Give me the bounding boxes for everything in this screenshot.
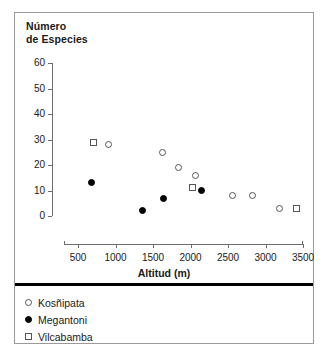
x-axis-endcap-left: [64, 241, 65, 245]
legend-item-label: Megantoni: [38, 314, 87, 326]
x-tick-label: 500: [58, 252, 98, 263]
figure-container: Número de Especies 0102030405060 5001000…: [14, 12, 314, 344]
data-point-open-circle: [192, 172, 199, 179]
x-axis-title: Altitud (m): [15, 267, 313, 279]
y-tick-label: 20: [23, 159, 45, 170]
data-point-open-circle: [105, 141, 112, 148]
y-axis-title: Número de Especies: [26, 20, 88, 46]
x-tick-label: 2500: [208, 252, 248, 263]
x-tick: [78, 244, 79, 248]
x-axis-line: [64, 244, 303, 245]
x-tick-label: 3000: [246, 252, 286, 263]
open-square-icon: [25, 333, 32, 340]
x-tick-label: 3500: [283, 252, 323, 263]
chart-panel: Número de Especies 0102030405060 5001000…: [15, 13, 313, 283]
data-point-open-circle: [159, 149, 166, 156]
chart-legend: KosñipataMegantoniVilcabamba: [15, 286, 313, 343]
data-point-open-square: [90, 139, 97, 146]
x-tick-label: 1000: [96, 252, 136, 263]
data-point-open-circle: [175, 164, 182, 171]
data-point-open-square: [293, 205, 300, 212]
data-point-open-square: [189, 184, 196, 191]
x-tick: [116, 244, 117, 248]
plot-area: [52, 51, 300, 216]
legend-item-label: Kosñipata: [38, 297, 85, 309]
y-tick-label: 30: [23, 134, 45, 145]
x-tick: [153, 244, 154, 248]
y-tick-label: 0: [23, 210, 45, 221]
y-tick: [48, 216, 52, 217]
legend-item-megantoni[interactable]: Megantoni: [25, 312, 313, 327]
data-point-open-circle: [249, 192, 256, 199]
y-tick-label: 10: [23, 185, 45, 196]
open-circle-icon: [25, 299, 32, 306]
x-tick-label: 2000: [171, 252, 211, 263]
legend-item-label: Vilcabamba: [38, 331, 93, 343]
x-tick: [228, 244, 229, 248]
y-tick-label: 60: [23, 57, 45, 68]
x-tick: [191, 244, 192, 248]
x-tick: [266, 244, 267, 248]
y-tick-label: 40: [23, 108, 45, 119]
y-tick-label: 50: [23, 83, 45, 94]
x-tick: [303, 244, 304, 248]
data-point-filled-circle: [160, 195, 167, 202]
filled-circle-icon: [25, 316, 32, 323]
legend-item-vilcabamba[interactable]: Vilcabamba: [25, 329, 313, 344]
x-tick-label: 1500: [133, 252, 173, 263]
legend-item-kosñipata[interactable]: Kosñipata: [25, 295, 313, 310]
